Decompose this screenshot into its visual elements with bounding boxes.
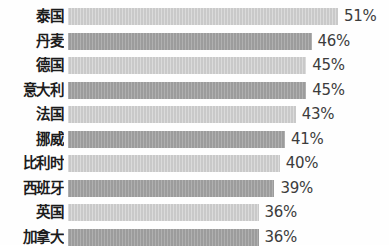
bar: [68, 131, 285, 148]
bar-value-label: 41%: [291, 131, 323, 148]
bar-value-label: 43%: [302, 106, 334, 123]
bar-track: 39%: [68, 180, 389, 197]
bar-track: 36%: [68, 204, 389, 221]
bar-category-label: 西班牙: [0, 180, 64, 197]
bar-track: 51%: [68, 8, 389, 25]
bar-row: 挪威41%: [0, 131, 389, 156]
bar: [68, 57, 306, 74]
bar: [68, 82, 306, 99]
bar-category-label: 法国: [0, 106, 64, 123]
bar-category-label: 加拿大: [0, 229, 64, 246]
bar: [68, 8, 338, 25]
bar-track: 46%: [68, 33, 389, 50]
bar-category-label: 德国: [0, 57, 64, 74]
bar-row: 法国43%: [0, 106, 389, 131]
bar-value-label: 36%: [265, 229, 297, 246]
bar-row: 意大利45%: [0, 82, 389, 107]
bar: [68, 106, 296, 123]
bar-row: 德国45%: [0, 57, 389, 82]
bar-value-label: 51%: [344, 8, 376, 25]
bar-row: 加拿大36%: [0, 229, 389, 250]
bar-track: 43%: [68, 106, 389, 123]
bar: [68, 180, 274, 197]
bar-row: 泰国51%: [0, 8, 389, 33]
bar-value-label: 45%: [312, 57, 344, 74]
bar-row: 比利时40%: [0, 155, 389, 180]
bar-category-label: 泰国: [0, 8, 64, 25]
bar-value-label: 39%: [280, 180, 312, 197]
bar-row: 英国36%: [0, 204, 389, 229]
bar-track: 41%: [68, 131, 389, 148]
bar-category-label: 意大利: [0, 82, 64, 99]
bar-track: 40%: [68, 155, 389, 172]
bar: [68, 229, 259, 246]
bar: [68, 33, 312, 50]
bar-category-label: 比利时: [0, 155, 64, 172]
bar-track: 45%: [68, 82, 389, 99]
bar-track: 36%: [68, 229, 389, 246]
bar-value-label: 45%: [312, 82, 344, 99]
bar-value-label: 46%: [318, 33, 350, 50]
bar: [68, 155, 280, 172]
bar-row: 丹麦46%: [0, 33, 389, 58]
bar-category-label: 英国: [0, 204, 64, 221]
bar-category-label: 丹麦: [0, 33, 64, 50]
bar-track: 45%: [68, 57, 389, 74]
bar-value-label: 36%: [265, 204, 297, 221]
bar-value-label: 40%: [286, 155, 318, 172]
bar: [68, 204, 259, 221]
bar-row: 西班牙39%: [0, 180, 389, 205]
bar-category-label: 挪威: [0, 131, 64, 148]
